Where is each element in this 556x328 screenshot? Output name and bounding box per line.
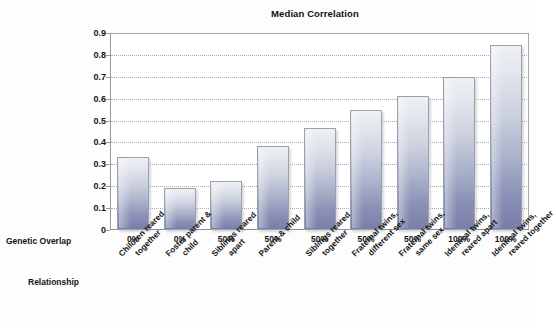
bar-sheen [259,148,270,228]
y-tick-label: 0.9 [6,28,106,38]
chart-title: Median Correlation [100,8,530,19]
y-tick-label: 0.4 [6,137,106,147]
y-tick-mark [106,230,110,231]
bar-series [110,33,529,230]
bar [397,96,429,230]
y-tick-label: 0.3 [6,159,106,169]
bar [350,110,382,230]
bar-sheen [492,47,503,228]
y-tick-label: 0 [6,225,106,235]
bar [490,45,522,230]
bar [117,157,149,230]
y-tick-label: 0.5 [6,116,106,126]
y-tick-label: 0.6 [6,94,106,104]
y-tick-label: 0.2 [6,181,106,191]
y-tick-label: 0.7 [6,72,106,82]
relationship-row-label: Relationship [28,277,79,287]
bar-sheen [445,79,456,228]
bar [443,77,475,230]
bar-sheen [352,112,363,228]
bar-sheen [119,159,130,228]
y-tick-label: 0.1 [6,203,106,213]
bar-sheen [399,98,410,228]
bar-sheen [306,130,317,228]
bar [257,146,289,230]
y-tick-label: 0.8 [6,50,106,60]
bar [304,128,336,230]
genetic-overlap-row-label: Genetic Overlap [6,236,71,246]
